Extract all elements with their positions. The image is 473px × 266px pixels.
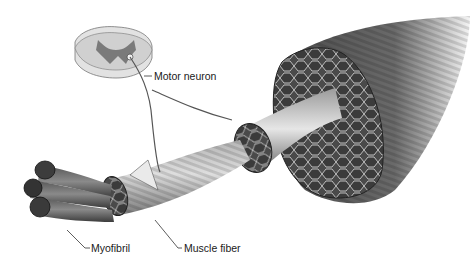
spinal-cord-section xyxy=(75,27,152,78)
leader-line-myofibril xyxy=(67,230,90,248)
motor-neuron-branch xyxy=(152,90,232,120)
diagram-illustration xyxy=(0,0,473,266)
muscle-anatomy-diagram: Motor neuron Myofibril Muscle fiber xyxy=(0,0,473,266)
muscle-fiber-shape xyxy=(98,140,250,218)
myofibrils xyxy=(24,161,114,222)
label-myofibril: Myofibril xyxy=(91,242,130,254)
leader-line-muscle-fiber xyxy=(155,220,182,248)
label-motor-neuron: Motor neuron xyxy=(154,70,216,82)
label-muscle-fiber: Muscle fiber xyxy=(184,242,241,254)
